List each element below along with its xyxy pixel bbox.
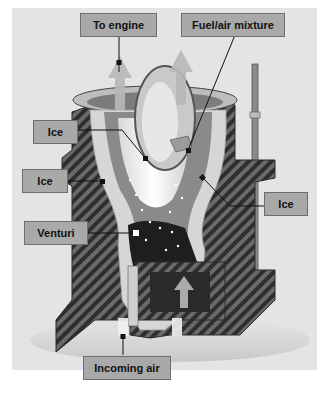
incoming-air-stream [118,318,128,336]
label-ice-left-wall: Ice [22,169,68,193]
venturi-marker [133,230,139,236]
label-venturi: Venturi [24,221,88,245]
label-fuel-air-mixture: Fuel/air mixture [181,13,285,37]
label-incoming-air: Incoming air [83,356,171,380]
label-ice-throttle: Ice [33,120,78,144]
label-to-engine: To engine [80,13,157,37]
chamber-wall [128,266,138,326]
incoming-air-stream-2 [172,318,182,336]
label-ice-right-wall: Ice [264,192,308,216]
